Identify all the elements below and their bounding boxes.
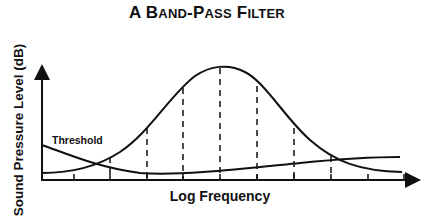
x-axis-arrow-icon	[405, 172, 421, 188]
threshold-curve	[42, 145, 400, 174]
y-axis-arrow-icon	[34, 64, 50, 80]
threshold-label: Threshold	[52, 134, 103, 146]
filter-response-curve	[42, 67, 402, 173]
y-axis-label: Sound Pressure Level (dB)	[11, 44, 26, 217]
x-axis-label: Log Frequency	[170, 188, 270, 204]
